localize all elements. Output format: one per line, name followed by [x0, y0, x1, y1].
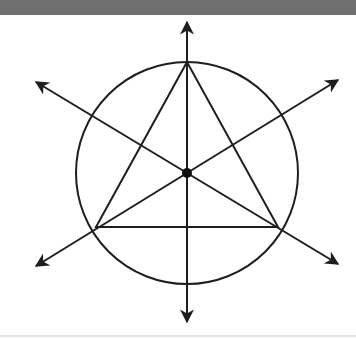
diagram-canvas [0, 15, 356, 335]
center-point [182, 168, 192, 178]
bottom-divider [0, 335, 356, 337]
geometry-diagram [0, 15, 356, 335]
top-bar [0, 0, 356, 15]
